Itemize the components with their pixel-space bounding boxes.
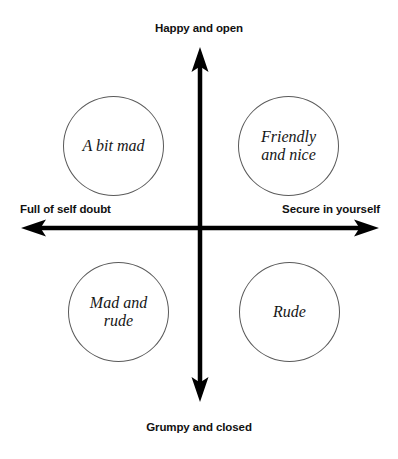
quadrant-diagram: Happy and open Grumpy and closed Full of…: [0, 0, 398, 459]
axis-label-top: Happy and open: [0, 23, 398, 35]
quadrant-circle-bottom-left: Mad and rude: [68, 262, 169, 362]
axes-group: [0, 0, 398, 459]
quadrant-label-bottom-right: Rude: [267, 303, 312, 321]
axis-label-right: Secure in yourself: [282, 204, 380, 216]
quadrant-label-bottom-left: Mad and rude: [84, 294, 153, 330]
axis-label-bottom: Grumpy and closed: [0, 422, 398, 434]
quadrant-circle-top-left: A bit mad: [63, 96, 164, 196]
quadrant-circle-top-right: Friendly and nice: [238, 96, 339, 196]
quadrant-circle-bottom-right: Rude: [239, 262, 340, 362]
quadrant-label-top-left: A bit mad: [77, 137, 151, 155]
axis-label-left: Full of self doubt: [20, 204, 111, 216]
quadrant-label-top-right: Friendly and nice: [255, 128, 322, 164]
